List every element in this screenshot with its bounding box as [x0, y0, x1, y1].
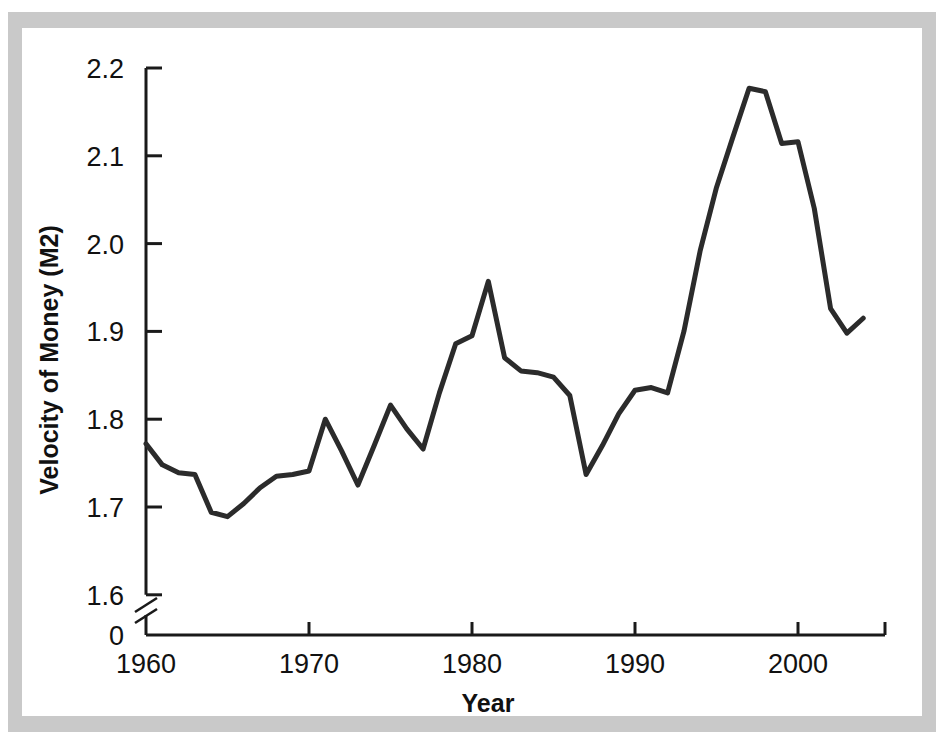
y-tick-label-1.9: 1.9	[86, 317, 124, 347]
y-tick-label-1.6: 1.6	[86, 581, 124, 611]
y-axis-title: Velocity of Money (M2)	[35, 225, 63, 494]
y-tick-label-1.8: 1.8	[86, 405, 124, 435]
y-tick-label-2.1: 2.1	[86, 142, 124, 172]
chart-plot-area: 1.61.71.81.92.02.12.20 19601970198019902…	[0, 0, 950, 749]
x-axis-title: Year	[462, 689, 515, 717]
chart-tick-marks	[146, 156, 798, 635]
x-tick-label-1990: 1990	[605, 649, 665, 679]
x-tick-labels: 19601970198019902000	[116, 649, 828, 679]
y-tick-label-1.7: 1.7	[86, 493, 124, 523]
x-tick-label-1960: 1960	[116, 649, 176, 679]
velocity-of-money-line	[146, 88, 863, 516]
y-tick-label-2.0: 2.0	[86, 230, 124, 260]
figure-page: 1.61.71.81.92.02.12.20 19601970198019902…	[0, 0, 950, 749]
x-tick-label-1980: 1980	[442, 649, 502, 679]
x-tick-label-1970: 1970	[279, 649, 339, 679]
data-series-line	[146, 88, 863, 516]
line-chart: 1.61.71.81.92.02.12.20 19601970198019902…	[0, 0, 950, 749]
x-tick-label-2000: 2000	[768, 649, 828, 679]
y-tick-label-zero: 0	[109, 621, 124, 651]
y-tick-labels: 1.61.71.81.92.02.12.20	[86, 54, 124, 651]
y-tick-label-2.2: 2.2	[86, 54, 124, 84]
chart-axes	[146, 68, 885, 635]
